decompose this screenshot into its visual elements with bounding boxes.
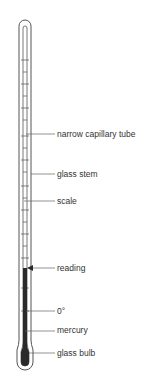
label-glass-bulb: glass bulb: [57, 348, 95, 358]
label-mercury: mercury: [57, 325, 88, 335]
label-narrow-capillary-tube: narrow capillary tube: [57, 129, 135, 139]
reading-marker-icon: [27, 265, 33, 271]
leader-lines: [24, 134, 55, 353]
label-glass-stem: glass stem: [57, 169, 98, 179]
label-reading: reading: [57, 263, 85, 273]
label-zero-degree: 0°: [57, 306, 65, 316]
label-scale: scale: [57, 196, 77, 206]
mercury-column: [23, 268, 27, 348]
thermometer-diagram: [0, 0, 164, 379]
